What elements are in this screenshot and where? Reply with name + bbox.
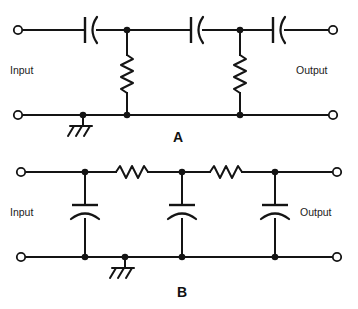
circuit-diagram-canvas: Input Output A xyxy=(0,0,358,309)
capacitor-b1 xyxy=(71,172,99,257)
ground-symbol-b xyxy=(110,257,134,278)
node-b-bottom-2 xyxy=(179,254,186,261)
node-b-bottom-1 xyxy=(82,254,89,261)
input-terminal-b-top[interactable] xyxy=(17,168,25,176)
node-b-top-1 xyxy=(82,169,89,176)
node-b-top-3 xyxy=(272,169,279,176)
capacitor-a1 xyxy=(85,17,97,43)
resistor-a2 xyxy=(234,30,246,115)
node-a-bottom-2 xyxy=(237,112,244,119)
circuit-label-b: B xyxy=(177,284,187,300)
capacitor-a2 xyxy=(191,17,203,43)
node-a-bottom-1 xyxy=(124,112,131,119)
circuit-label-a: A xyxy=(173,129,183,145)
circuit-b: Input Output B xyxy=(10,166,341,300)
capacitor-b3 xyxy=(261,172,289,257)
output-label-b: Output xyxy=(300,206,332,218)
resistor-b1 xyxy=(116,166,148,178)
input-terminal-b-bottom[interactable] xyxy=(17,253,25,261)
output-terminal-b-top[interactable] xyxy=(333,168,341,176)
node-b-bottom-3 xyxy=(272,254,279,261)
resistor-b2 xyxy=(210,166,246,178)
output-terminal-b-bottom[interactable] xyxy=(333,253,341,261)
node-a-top-1 xyxy=(124,27,131,34)
ground-symbol-a xyxy=(68,115,92,136)
output-terminal-a-bottom[interactable] xyxy=(329,111,337,119)
output-label-a: Output xyxy=(296,64,328,76)
circuit-figure: Input Output A xyxy=(0,0,358,309)
circuit-a: Input Output A xyxy=(10,17,337,145)
resistor-a1 xyxy=(121,30,133,115)
capacitor-a3 xyxy=(273,17,285,43)
input-terminal-a-bottom[interactable] xyxy=(14,111,22,119)
node-b-top-2 xyxy=(179,169,186,176)
node-a-top-2 xyxy=(237,27,244,34)
input-label-b: Input xyxy=(10,206,33,218)
input-terminal-a-top[interactable] xyxy=(14,26,22,34)
input-label-a: Input xyxy=(10,64,33,76)
capacitor-b2 xyxy=(168,172,196,257)
output-terminal-a-top[interactable] xyxy=(329,26,337,34)
